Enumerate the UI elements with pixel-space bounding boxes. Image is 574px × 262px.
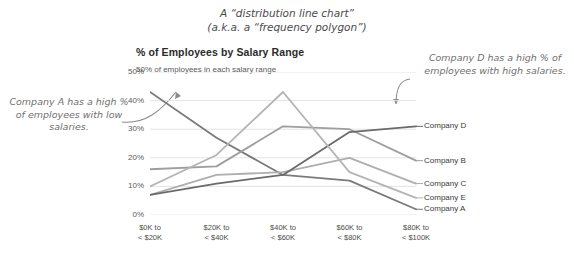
series-label-company-a: Company A [424, 204, 465, 213]
supertitle-line-2: (a.k.a. a “frequency polygon”) [0, 20, 574, 34]
chart-title: % of Employees by Salary Range [136, 46, 304, 58]
x-axis-tick-line: $0K to [122, 223, 178, 233]
x-axis-tick-label: $80K to< $100K [388, 223, 444, 243]
y-axis-tick-label: 20% [114, 153, 144, 162]
supertitle-line-1: A “distribution line chart” [0, 6, 574, 20]
series-lines [150, 92, 416, 209]
series-label-company-e: Company E [424, 193, 466, 202]
x-axis-tick-line: < $80K [322, 233, 378, 243]
x-axis-tick-line: $80K to [388, 223, 444, 233]
y-axis-tick-label: 30% [114, 124, 144, 133]
x-axis-tick-label: $20K to< $40K [189, 223, 245, 243]
series-label-company-d: Company D [424, 121, 466, 130]
series-line-company-c [150, 158, 416, 195]
series-line-company-d [150, 126, 416, 195]
x-axis-tick-label: $0K to< $20K [122, 223, 178, 243]
x-axis-tick-line: $20K to [189, 223, 245, 233]
series-line-company-e [150, 92, 416, 198]
line-chart-svg [150, 72, 426, 215]
x-axis-tick-label: $40K to< $60K [255, 223, 311, 243]
gridlines [150, 72, 416, 215]
supertitle: A “distribution line chart” (a.k.a. a “f… [0, 6, 574, 34]
y-axis-tick-label: 40% [114, 96, 144, 105]
x-axis-tick-line: < $40K [189, 233, 245, 243]
y-axis-tick-label: 0% [114, 210, 144, 219]
annotation-company-a: Company A has a high % of employees with… [8, 96, 130, 134]
x-axis-tick-line: < $20K [122, 233, 178, 243]
series-label-company-c: Company C [424, 179, 466, 188]
y-axis-tick-label: 50% [114, 67, 144, 76]
y-axis-tick-label: 10% [114, 181, 144, 190]
x-axis-tick-line: $60K to [322, 223, 378, 233]
x-axis-tick-line: < $60K [255, 233, 311, 243]
series-label-company-b: Company B [424, 156, 466, 165]
x-axis-tick-line: < $100K [388, 233, 444, 243]
x-axis-tick-line: $40K to [255, 223, 311, 233]
annotation-company-d: Company D has a high % of employees with… [420, 52, 570, 77]
series-line-company-b [150, 126, 416, 169]
chart-plot-area [150, 72, 426, 215]
x-axis-tick-label: $60K to< $80K [322, 223, 378, 243]
series-line-company-a [150, 92, 416, 209]
